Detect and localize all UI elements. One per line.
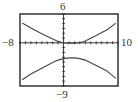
- x-min-label: −8: [2, 37, 14, 48]
- y-min-label: −9: [56, 89, 68, 100]
- viewing-window-frame: [20, 14, 118, 86]
- y-max-label: 6: [60, 1, 66, 12]
- x-max-label: 10: [121, 37, 132, 48]
- graph-window: [0, 0, 138, 102]
